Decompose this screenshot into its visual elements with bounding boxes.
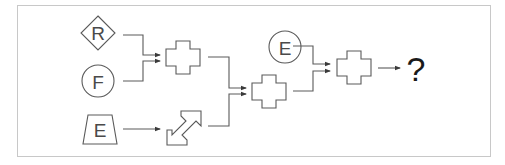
node-double-arrow <box>167 111 201 145</box>
node-r-diamond: R <box>81 16 115 50</box>
edge-arrowbox-to-cross2 <box>208 94 246 126</box>
flow-diagram: R F E E ? <box>0 0 505 165</box>
node-cross-2 <box>252 75 286 108</box>
output-question-mark: ? <box>407 50 426 88</box>
node-e-circle: E <box>269 31 301 63</box>
node-e-trapezoid: E <box>83 115 117 144</box>
edge-f-to-cross1 <box>123 61 160 81</box>
node-e-circle-label: E <box>279 38 292 59</box>
node-r-label: R <box>91 23 105 44</box>
node-cross-3 <box>337 51 371 84</box>
node-f-circle: F <box>82 65 114 97</box>
edge-cross2-to-cross3 <box>293 71 330 91</box>
edge-r-to-cross1 <box>123 35 160 55</box>
cross-icon <box>166 41 200 74</box>
double-arrow-icon <box>167 111 201 145</box>
node-f-label: F <box>92 72 104 93</box>
cross-icon <box>252 75 286 108</box>
node-cross-1 <box>166 41 200 74</box>
edge-cross1-to-cross2 <box>208 57 246 88</box>
cross-icon <box>337 51 371 84</box>
node-e-trapezoid-label: E <box>94 120 107 141</box>
